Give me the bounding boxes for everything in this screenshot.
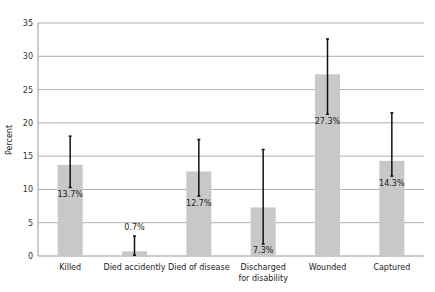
value-label: 12.7% bbox=[186, 199, 212, 208]
value-label: 0.7% bbox=[124, 223, 145, 232]
category-label: for disability bbox=[238, 274, 288, 283]
y-axis-label: Percent bbox=[5, 125, 14, 155]
value-labels: 13.7%0.7%12.7%7.3%27.3%14.3% bbox=[57, 117, 404, 255]
category-label: Discharged bbox=[241, 263, 286, 272]
y-tick-label: 25 bbox=[23, 86, 33, 95]
y-tick-label: 15 bbox=[23, 152, 33, 161]
x-axis-category-labels: KilledDied accidentlyDied of diseaseDisc… bbox=[59, 263, 410, 283]
value-label: 13.7% bbox=[57, 190, 83, 199]
value-label: 14.3% bbox=[379, 179, 405, 188]
value-label: 27.3% bbox=[315, 117, 341, 126]
y-tick-label: 35 bbox=[23, 19, 33, 28]
y-tick-label: 5 bbox=[28, 219, 33, 228]
category-label: Captured bbox=[373, 263, 410, 272]
category-label: Wounded bbox=[309, 263, 347, 272]
category-label: Killed bbox=[59, 263, 81, 272]
category-label: Died of disease bbox=[168, 263, 230, 272]
y-axis-ticks: 05101520253035 bbox=[23, 19, 33, 261]
bar-chart: 05101520253035 Percent 13.7%0.7%12.7%7.3… bbox=[0, 0, 435, 292]
y-tick-label: 10 bbox=[23, 185, 33, 194]
value-label: 7.3% bbox=[253, 246, 274, 255]
category-label: Died accidently bbox=[103, 263, 165, 272]
y-tick-label: 20 bbox=[23, 119, 33, 128]
bars bbox=[58, 74, 405, 256]
gridlines bbox=[38, 23, 424, 256]
y-tick-label: 30 bbox=[23, 52, 33, 61]
y-tick-label: 0 bbox=[28, 252, 33, 261]
